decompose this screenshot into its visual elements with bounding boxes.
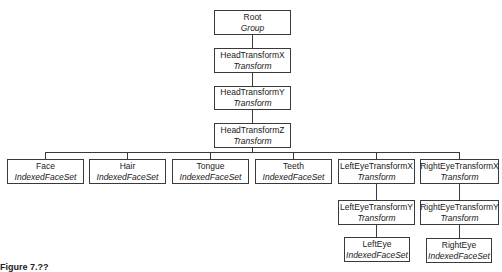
edge-lefteyex-lefteyey: [376, 184, 377, 200]
node-root: Root Group: [214, 10, 291, 35]
node-type: Transform: [233, 98, 271, 109]
edge-righteyey-righteye: [459, 225, 460, 238]
node-name: RightEyeTransformX: [420, 161, 499, 172]
node-type: IndexedFaceSet: [180, 172, 242, 183]
node-left-eye: LeftEye IndexedFaceSet: [344, 237, 410, 262]
node-name: LeftEye: [363, 239, 392, 250]
edge-bus-face: [45, 152, 46, 159]
edge-bus-righteyex: [459, 152, 460, 159]
node-type: Transform: [233, 136, 271, 147]
edge-righteyex-righteyey: [459, 184, 460, 200]
node-type: Transform: [440, 172, 478, 183]
node-name: Tongue: [197, 161, 225, 172]
node-name: HeadTransformZ: [221, 125, 285, 136]
node-type: Transform: [233, 61, 271, 72]
node-type: Transform: [357, 213, 395, 224]
node-face: Face IndexedFaceSet: [7, 159, 84, 184]
node-name: LeftEyeTransformY: [340, 202, 413, 213]
edge-root-headx: [252, 35, 253, 48]
node-type: IndexedFaceSet: [428, 251, 490, 262]
edge-headx-heady: [252, 73, 253, 86]
node-type: IndexedFaceSet: [15, 172, 77, 183]
node-name: Teeth: [283, 161, 304, 172]
node-right-eye: RightEye IndexedFaceSet: [426, 238, 492, 263]
node-name: LeftEyeTransformX: [340, 161, 413, 172]
node-left-eye-transform-x: LeftEyeTransformX Transform: [338, 159, 415, 184]
node-name: HeadTransformY: [220, 87, 284, 98]
edge-bus-tongue: [210, 152, 211, 159]
node-left-eye-transform-y: LeftEyeTransformY Transform: [338, 200, 415, 225]
edge-heady-headz: [252, 110, 253, 123]
edge-bus-lefteyex: [376, 152, 377, 159]
node-name: Face: [36, 161, 55, 172]
node-type: Transform: [357, 172, 395, 183]
node-right-eye-transform-y: RightEyeTransformY Transform: [420, 200, 499, 225]
node-hair: Hair IndexedFaceSet: [89, 159, 166, 184]
node-name: RightEye: [442, 240, 477, 251]
node-type: IndexedFaceSet: [263, 172, 325, 183]
node-right-eye-transform-x: RightEyeTransformX Transform: [420, 159, 499, 184]
figure-caption: Figure 7.??: [0, 262, 49, 272]
edge-bus-hair: [127, 152, 128, 159]
node-name: Hair: [120, 161, 136, 172]
node-name: HeadTransformX: [220, 50, 284, 61]
node-type: IndexedFaceSet: [346, 250, 408, 261]
edge-bus-teeth: [293, 152, 294, 159]
node-type: IndexedFaceSet: [97, 172, 159, 183]
edge-lefteyey-lefteye: [376, 225, 377, 237]
node-head-transform-y: HeadTransformY Transform: [214, 86, 291, 110]
edge-children-bus: [45, 152, 460, 153]
node-type: Group: [241, 23, 265, 34]
node-tongue: Tongue IndexedFaceSet: [172, 159, 249, 184]
node-head-transform-x: HeadTransformX Transform: [214, 48, 291, 73]
node-type: Transform: [440, 213, 478, 224]
node-teeth: Teeth IndexedFaceSet: [255, 159, 332, 184]
node-head-transform-z: HeadTransformZ Transform: [214, 123, 291, 148]
node-name: Root: [244, 12, 262, 23]
node-name: RightEyeTransformY: [420, 202, 499, 213]
